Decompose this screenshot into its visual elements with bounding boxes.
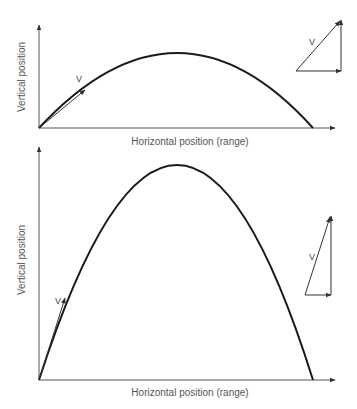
- top-diagram: V Horizontal position (range) Vertical p…: [16, 20, 341, 147]
- top-triangle-label: V: [309, 37, 315, 47]
- bottom-trajectory: [39, 165, 313, 380]
- bottom-velocity-arrow-icon: [39, 298, 65, 380]
- bottom-velocity-label: V: [55, 296, 61, 306]
- top-vector-triangle: V: [296, 20, 341, 71]
- top-velocity-label: V: [76, 74, 82, 84]
- bottom-vector-triangle: V: [305, 216, 331, 295]
- bottom-triangle-label: V: [309, 252, 315, 262]
- top-x-axis-label: Horizontal position (range): [131, 136, 248, 147]
- bottom-x-axis-label: Horizontal position (range): [131, 387, 248, 398]
- top-y-axis-label: Vertical position: [16, 42, 27, 112]
- projectile-diagrams: V Horizontal position (range) Vertical p…: [0, 0, 357, 409]
- top-velocity-arrow-icon: [39, 90, 85, 128]
- bottom-diagram: V Horizontal position (range) Vertical p…: [16, 147, 335, 398]
- bottom-y-axis-label: Vertical position: [16, 225, 27, 295]
- top-trajectory: [39, 53, 313, 128]
